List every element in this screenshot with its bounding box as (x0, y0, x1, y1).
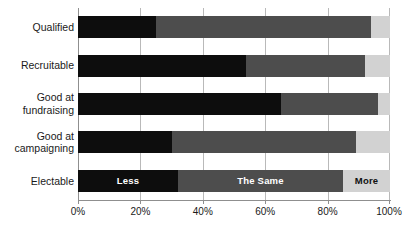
category-label-line: Good at (37, 91, 74, 104)
category-label-line: Good at (37, 130, 74, 143)
category-label-recruitable: Recruitable (0, 46, 74, 84)
bar-row-qualified (78, 8, 390, 46)
stacked-bar (78, 131, 390, 153)
bar-row-good-at-fundraising (78, 85, 390, 123)
segment-the-same: The Same (178, 170, 343, 192)
legend-label-more: More (355, 175, 379, 186)
category-label-line: Recruitable (21, 59, 74, 72)
category-label-good-at-fundraising: Good at fundraising (0, 85, 74, 123)
bar-row-recruitable (78, 46, 390, 84)
bar-rows: Less The Same More (78, 8, 390, 200)
category-label-line: fundraising (23, 104, 74, 117)
stacked-bar (78, 16, 390, 38)
category-label-line: Qualified (33, 21, 74, 34)
stacked-bar (78, 93, 390, 115)
x-tick-label-20: 20% (130, 206, 150, 217)
category-label-qualified: Qualified (0, 8, 74, 46)
x-axis-line (78, 200, 391, 201)
x-tick-label-100: 100% (376, 206, 402, 217)
tick-40 (203, 200, 204, 204)
segment-more (365, 55, 390, 77)
segment-more (378, 93, 390, 115)
segment-less (78, 131, 172, 153)
x-tick-label-60: 60% (255, 206, 275, 217)
segment-less (78, 16, 156, 38)
tick-100 (389, 200, 390, 204)
stacked-bar-chart: Qualified Recruitable Good at fundraisin… (0, 0, 408, 229)
segment-the-same (246, 55, 365, 77)
tick-0 (78, 200, 79, 204)
segment-less (78, 55, 246, 77)
tick-60 (265, 200, 266, 204)
segment-more (371, 16, 390, 38)
tick-80 (328, 200, 329, 204)
segment-more (356, 131, 390, 153)
x-tick-label-80: 80% (318, 206, 338, 217)
tick-20 (140, 200, 141, 204)
category-label-electable: Electable (0, 162, 74, 200)
x-tick-label-40: 40% (193, 206, 213, 217)
segment-the-same (172, 131, 356, 153)
bar-row-electable: Less The Same More (78, 162, 390, 200)
y-axis-category-labels: Qualified Recruitable Good at fundraisin… (0, 8, 74, 200)
legend-label-the-same: The Same (237, 175, 283, 186)
segment-more: More (343, 170, 390, 192)
x-axis-tick-labels: 0% 20% 40% 60% 80% 100% (0, 206, 408, 224)
stacked-bar (78, 55, 390, 77)
bar-row-good-at-campaigning (78, 123, 390, 161)
category-label-good-at-campaigning: Good at campaigning (0, 123, 74, 161)
segment-the-same (156, 16, 371, 38)
stacked-bar: Less The Same More (78, 170, 390, 192)
segment-less: Less (78, 170, 178, 192)
segment-the-same (281, 93, 378, 115)
category-label-line: campaigning (14, 142, 74, 155)
legend-label-less: Less (117, 175, 139, 186)
x-tick-label-0: 0% (71, 206, 85, 217)
segment-less (78, 93, 281, 115)
category-label-line: Electable (31, 175, 74, 188)
